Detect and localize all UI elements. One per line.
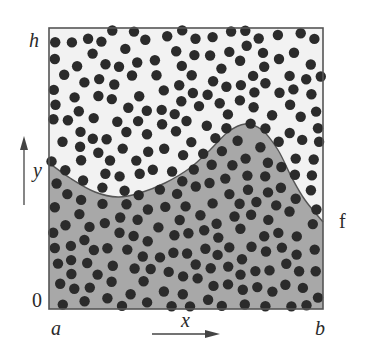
random-point	[291, 249, 301, 259]
random-point	[87, 48, 97, 58]
random-point	[288, 84, 298, 94]
random-point	[182, 248, 192, 258]
random-point	[202, 90, 212, 100]
random-point	[276, 162, 286, 172]
random-point	[53, 258, 63, 268]
random-point	[168, 248, 178, 258]
random-point	[74, 209, 84, 219]
random-point	[207, 32, 217, 42]
random-point	[189, 50, 199, 60]
random-point	[50, 202, 60, 212]
random-point	[221, 82, 231, 92]
label-y: y	[33, 160, 42, 180]
random-point	[138, 276, 148, 286]
random-point	[276, 183, 286, 193]
random-point	[301, 74, 311, 84]
random-point	[177, 176, 187, 186]
random-point	[114, 228, 124, 238]
random-point	[263, 158, 273, 168]
random-point	[157, 119, 167, 129]
random-point	[311, 106, 321, 116]
random-point	[174, 80, 184, 90]
random-point	[60, 165, 70, 175]
random-point	[261, 246, 271, 256]
random-point	[155, 184, 165, 194]
random-point	[217, 146, 227, 156]
random-point	[189, 164, 199, 174]
random-point	[307, 170, 317, 180]
random-point	[260, 78, 270, 88]
random-point	[114, 62, 124, 72]
random-point	[134, 91, 144, 101]
random-point	[93, 148, 103, 158]
random-point	[114, 171, 124, 181]
random-point	[259, 231, 269, 241]
random-point	[157, 105, 167, 115]
random-point	[235, 269, 245, 279]
random-point	[227, 160, 237, 170]
random-point	[204, 178, 214, 188]
random-point	[142, 297, 152, 307]
random-point	[79, 235, 89, 245]
random-point	[215, 98, 225, 108]
random-point	[260, 171, 270, 181]
random-point	[203, 295, 213, 305]
random-point	[50, 100, 60, 110]
random-point	[254, 33, 264, 43]
random-point	[220, 173, 230, 183]
random-point	[125, 289, 135, 299]
random-point	[171, 46, 181, 56]
random-point	[178, 150, 188, 160]
random-point	[259, 62, 269, 72]
random-point	[106, 277, 116, 287]
random-point	[258, 48, 268, 58]
random-point	[79, 77, 89, 87]
random-point	[107, 94, 117, 104]
random-point	[237, 254, 247, 264]
random-point	[306, 89, 316, 99]
random-point	[134, 190, 144, 200]
random-point	[142, 106, 152, 116]
random-point	[121, 199, 131, 209]
random-point	[50, 243, 60, 253]
random-point	[175, 215, 185, 225]
random-point	[292, 231, 302, 241]
random-point	[267, 286, 277, 296]
random-point	[223, 279, 233, 289]
label-zero: 0	[32, 290, 42, 310]
random-point	[69, 284, 79, 294]
random-point	[84, 222, 94, 232]
random-point	[291, 194, 301, 204]
random-point	[160, 202, 170, 212]
random-point	[100, 218, 110, 228]
random-point	[142, 129, 152, 139]
random-point	[240, 26, 250, 36]
random-point	[132, 215, 142, 225]
random-point	[199, 225, 209, 235]
random-point	[150, 55, 160, 65]
random-point	[75, 142, 85, 152]
random-point	[186, 137, 196, 147]
random-point	[177, 61, 187, 71]
plot-area	[0, 0, 368, 361]
random-point	[83, 34, 93, 44]
random-point	[171, 126, 181, 136]
random-point	[135, 169, 145, 179]
random-point	[306, 59, 316, 69]
random-point	[151, 70, 161, 80]
random-point	[297, 135, 307, 145]
random-point	[263, 187, 273, 197]
random-point	[309, 34, 319, 44]
random-point	[78, 175, 88, 185]
random-point	[224, 189, 234, 199]
random-point	[153, 222, 163, 232]
x-axis-arrow-icon	[152, 330, 220, 338]
random-point	[286, 301, 296, 311]
random-point	[148, 165, 158, 175]
random-point	[63, 115, 73, 125]
random-point	[245, 118, 255, 128]
random-point	[251, 197, 261, 207]
random-point	[309, 154, 319, 164]
random-point	[210, 133, 220, 143]
random-point	[313, 292, 323, 302]
